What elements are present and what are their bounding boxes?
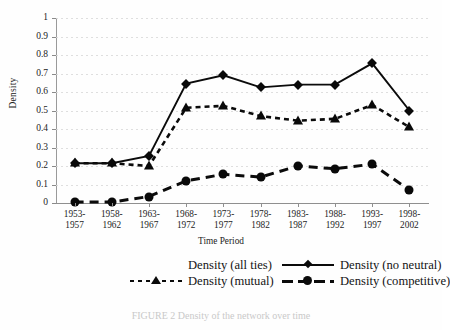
data-point-marker	[144, 160, 154, 169]
data-point-marker	[218, 100, 228, 109]
y-tick-label: 0.2	[36, 161, 48, 171]
x-tick-label-line2: 1987	[287, 220, 309, 231]
x-tick-mark	[335, 203, 336, 207]
x-tick-label: 1993-1997	[361, 209, 383, 231]
data-point-marker	[145, 192, 154, 201]
data-point-marker	[368, 160, 377, 169]
y-tick-label: 0.5	[36, 106, 48, 116]
figure-caption: FIGURE 2 Density of the network over tim…	[0, 310, 442, 321]
legend-label: Density (mutual)	[188, 274, 274, 288]
data-point-marker	[367, 99, 377, 108]
series-line-2	[75, 105, 410, 166]
x-tick-label: 1988-1992	[324, 209, 346, 231]
x-tick-mark	[409, 203, 410, 207]
x-tick-label-line2: 1962	[101, 220, 123, 231]
x-tick-mark	[149, 203, 150, 207]
data-point-marker	[181, 102, 191, 111]
x-tick-label: 1953-1957	[64, 209, 86, 231]
x-tick-label-line1: 1988-	[324, 209, 346, 220]
data-point-marker	[256, 173, 265, 182]
data-point-marker	[331, 164, 340, 173]
x-tick-mark	[223, 203, 224, 207]
x-tick-label-line2: 1977	[213, 220, 235, 231]
x-axis-title: Time Period	[0, 236, 442, 246]
x-tick-mark	[75, 203, 76, 207]
y-tick-label: 0	[43, 198, 48, 208]
x-tick-label-line1: 1953-	[64, 209, 86, 220]
data-point-marker	[256, 110, 266, 119]
y-axis-tick-labels: 00.10.20.30.40.50.60.70.80.91	[0, 18, 52, 203]
x-tick-label-line1: 1958-	[101, 209, 123, 220]
legend-circle-icon	[303, 276, 312, 285]
x-tick-label-line2: 1967	[138, 220, 160, 231]
x-tick-label: 1968-1972	[175, 209, 197, 231]
legend-label: Density (no neutral)	[340, 258, 441, 272]
x-tick-label-line1: 1978-	[250, 209, 272, 220]
x-tick-mark	[298, 203, 299, 207]
x-tick-label-line2: 1957	[64, 220, 86, 231]
data-point-marker	[182, 176, 191, 185]
x-tick-label-line2: 1982	[250, 220, 272, 231]
x-tick-label-line2: 2002	[399, 220, 421, 231]
x-tick-label-line1: 1983-	[287, 209, 309, 220]
y-tick-label: 0.8	[36, 50, 48, 60]
x-tick-label-line1: 1968-	[175, 209, 197, 220]
x-tick-mark	[372, 203, 373, 207]
legend-swatch	[280, 258, 336, 272]
series-line-3	[75, 164, 410, 202]
x-tick-label-line2: 1997	[361, 220, 383, 231]
legend-label: Density (competitive)	[340, 274, 450, 288]
x-tick-label-line2: 1972	[175, 220, 197, 231]
x-tick-label: 1973-1977	[213, 209, 235, 231]
x-tick-label: 1978-1982	[250, 209, 272, 231]
legend-triangle-icon	[151, 276, 161, 284]
plot-area	[56, 18, 428, 203]
x-tick-label: 1983-1987	[287, 209, 309, 231]
x-tick-label-line1: 1963-	[138, 209, 160, 220]
legend-swatch	[280, 274, 336, 288]
x-tick-mark	[112, 203, 113, 207]
legend-swatch	[128, 274, 184, 288]
data-point-marker	[404, 122, 414, 131]
x-tick-label-line2: 1992	[324, 220, 346, 231]
y-tick-label: 1	[43, 13, 48, 23]
y-tick-label: 0.9	[36, 32, 48, 42]
y-tick-label: 0.3	[36, 143, 48, 153]
legend-diamond-icon	[304, 260, 312, 268]
x-tick-mark	[186, 203, 187, 207]
data-point-marker	[219, 170, 228, 179]
legend-label: Density (all ties)	[188, 258, 272, 272]
x-tick-label-line1: 1998-	[399, 209, 421, 220]
series-lines	[56, 18, 428, 203]
data-point-marker	[293, 115, 303, 124]
data-point-marker	[405, 186, 414, 195]
y-tick-label: 0.6	[36, 87, 48, 97]
data-point-marker	[70, 158, 80, 167]
x-tick-label-line1: 1973-	[213, 209, 235, 220]
x-tick-label-line1: 1993-	[361, 209, 383, 220]
data-point-marker	[107, 158, 117, 167]
data-point-marker	[330, 113, 340, 122]
x-tick-mark	[261, 203, 262, 207]
x-tick-label: 1958-1962	[101, 209, 123, 231]
legend-swatch	[128, 258, 184, 272]
x-tick-label: 1998-2002	[399, 209, 421, 231]
x-tick-label: 1963-1967	[138, 209, 160, 231]
y-tick-label: 0.4	[36, 124, 48, 134]
y-tick-label: 0.1	[36, 180, 48, 190]
data-point-marker	[293, 162, 302, 171]
chart-legend: Density (all ties)Density (no neutral)De…	[0, 258, 442, 300]
chart-plot-wrapper: Density 00.10.20.30.40.50.60.70.80.91 19…	[0, 0, 442, 262]
y-tick-label: 0.7	[36, 69, 48, 79]
series-line-1	[75, 63, 410, 163]
y-tick-mark	[52, 203, 56, 204]
